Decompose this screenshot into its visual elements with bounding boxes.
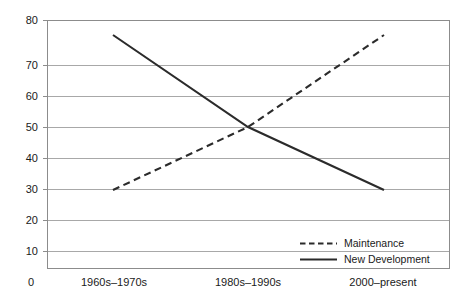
y-label-40: 40 [26,152,38,164]
y-label-60: 60 [26,90,38,102]
x-label-1960s-1970s: 1960s–1970s [81,276,148,288]
legend-label-maintenance: Maintenance [344,237,404,249]
y-label-10: 10 [26,245,38,257]
x-label-1980s-1990s: 1980s–1990s [215,276,282,288]
chart-canvas: 80 70 60 50 40 30 20 10 0 1960s–1970s 19… [0,0,476,300]
y-label-80: 80 [26,14,38,26]
line-chart: 80 70 60 50 40 30 20 10 0 1960s–1970s 19… [0,0,476,300]
x-label-2000-present: 2000–present [349,276,416,288]
origin-label: 0 [28,276,34,288]
x-axis-labels: 1960s–1970s 1980s–1990s 2000–present [81,276,417,288]
y-label-70: 70 [26,59,38,71]
y-label-20: 20 [26,214,38,226]
legend-label-new-development: New Development [344,253,430,265]
y-label-50: 50 [26,121,38,133]
y-label-30: 30 [26,183,38,195]
